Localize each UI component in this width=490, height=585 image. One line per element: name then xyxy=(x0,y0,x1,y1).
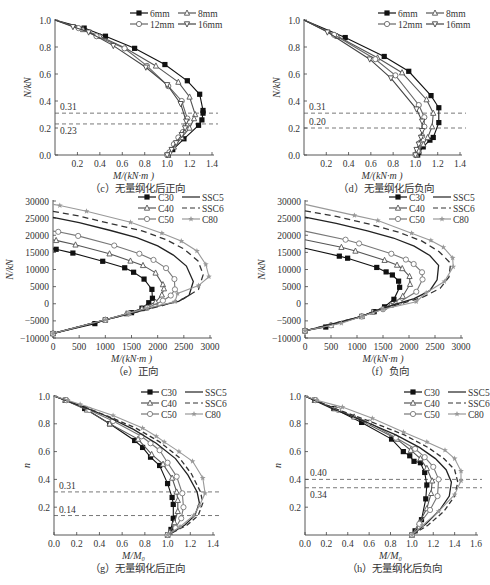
x-tick-label: 1.2 xyxy=(184,539,196,549)
y-tick-label: 0.6 xyxy=(289,447,301,457)
star-marker-icon xyxy=(458,478,464,483)
square-marker-icon xyxy=(396,279,401,284)
legend-item: C80 xyxy=(433,215,469,225)
legend-item: C40 xyxy=(389,204,425,214)
y-tick-label: 0.0 xyxy=(39,151,51,161)
square-marker-icon xyxy=(162,62,167,67)
square-marker-icon xyxy=(132,46,137,51)
x-tick-label: 1000 xyxy=(96,342,115,352)
legend-label: C50 xyxy=(161,410,177,420)
series-line-12mm xyxy=(304,20,424,155)
legend-item: 8mm xyxy=(426,9,466,19)
star-marker-icon xyxy=(454,411,460,416)
legend-item: C30 xyxy=(404,388,440,398)
legend-label: C30 xyxy=(161,388,177,398)
circle-marker-icon xyxy=(411,261,416,266)
legend-item: 8mm xyxy=(178,9,218,19)
chart-panel-c: 0.20.40.60.81.01.21.40.00.20.40.60.81.0N… xyxy=(22,9,223,195)
legend-label: 6mm xyxy=(398,9,418,19)
triangle-marker-icon xyxy=(400,265,405,270)
y-axis-label: n xyxy=(21,463,32,468)
circle-marker-icon xyxy=(356,241,361,246)
x-tick-label: 1.4 xyxy=(207,539,219,549)
legend-label: C80 xyxy=(453,215,469,225)
star-marker-icon xyxy=(439,216,445,221)
legend-item: C80 xyxy=(182,215,218,225)
x-tick-label: 2500 xyxy=(174,342,193,352)
x-tick-label: 1000 xyxy=(348,342,367,352)
x-tick-label: 1.2 xyxy=(432,159,444,169)
reference-line-label: 0.23 xyxy=(60,126,77,136)
figure-canvas: 0.20.40.60.81.01.21.40.00.20.40.60.81.0N… xyxy=(0,0,490,585)
triangle-down-marker-icon xyxy=(414,107,419,112)
star-marker-icon xyxy=(375,218,381,223)
y-tick-label: −10000 xyxy=(272,334,301,344)
x-tick-label: 1.0 xyxy=(409,159,421,169)
circle-marker-icon xyxy=(179,516,184,521)
legend-item: 12mm xyxy=(378,20,423,30)
legend-item: C50 xyxy=(389,215,425,225)
square-marker-icon xyxy=(136,10,141,15)
triangle-marker-icon xyxy=(429,490,434,495)
y-tick-label: 0.8 xyxy=(289,419,301,429)
star-marker-icon xyxy=(188,216,194,221)
y-axis-label: N/kN xyxy=(271,76,282,99)
circle-marker-icon xyxy=(395,216,400,221)
y-tick-label: 1.0 xyxy=(39,16,51,26)
circle-marker-icon xyxy=(136,21,141,26)
square-marker-icon xyxy=(100,259,105,264)
legend-label: SSC6 xyxy=(468,399,490,409)
panel-caption: （e）正向 xyxy=(113,365,158,377)
legend-label: SSC5 xyxy=(202,193,224,203)
legend-label: C30 xyxy=(424,388,440,398)
x-tick-label: 0.6 xyxy=(363,539,375,549)
chart-panel-e: 050010001500200025003000−10000−500005000… xyxy=(4,193,224,378)
square-marker-icon xyxy=(424,482,429,487)
square-marker-icon xyxy=(428,93,433,98)
legend-item: C80 xyxy=(448,410,484,420)
y-tick-label: 30000 xyxy=(25,197,49,207)
square-marker-icon xyxy=(374,265,379,270)
circle-marker-icon xyxy=(422,455,427,460)
series-line-6mm xyxy=(304,20,439,155)
legend-item: C30 xyxy=(389,193,425,203)
legend-item: SSC6 xyxy=(182,204,224,214)
x-tick-label: 1.4 xyxy=(206,159,218,169)
square-marker-icon xyxy=(401,449,406,454)
legend: C30C40C50SSC5SSC6C80 xyxy=(404,388,490,420)
legend-label: SSC6 xyxy=(453,204,475,214)
x-tick-label: 0.2 xyxy=(320,539,332,549)
legend-label: SSC6 xyxy=(202,204,224,214)
x-tick-label: 0.6 xyxy=(116,539,128,549)
square-marker-icon xyxy=(337,254,342,259)
square-marker-icon xyxy=(147,389,152,394)
circle-marker-icon xyxy=(56,229,61,234)
legend-item: SSC6 xyxy=(185,399,227,409)
legend-label: SSC5 xyxy=(453,193,475,203)
chart-panel-d: 0.20.40.60.81.01.21.40.00.20.40.60.81.0N… xyxy=(271,9,471,195)
legend-label: C50 xyxy=(409,215,425,225)
reference-line-label: 0.31 xyxy=(60,102,77,112)
triangle-marker-icon xyxy=(407,281,412,286)
y-tick-label: 0.4 xyxy=(289,475,301,485)
triangle-marker-icon xyxy=(430,478,435,483)
legend: C30C40C50SSC5SSC6C80 xyxy=(138,193,224,225)
x-axis-label: M/(kN·m ) xyxy=(110,353,153,365)
reference-line-label: 0.31 xyxy=(59,481,76,491)
square-marker-icon xyxy=(384,269,389,274)
x-tick-label: 3000 xyxy=(201,342,220,352)
square-marker-icon xyxy=(70,250,75,255)
y-axis-label: n xyxy=(272,463,283,468)
legend-item: C40 xyxy=(141,399,177,409)
legend-label: 6mm xyxy=(150,9,170,19)
circle-marker-icon xyxy=(172,287,177,292)
legend-label: C50 xyxy=(158,215,174,225)
legend-label: 8mm xyxy=(446,9,466,19)
x-tick-label: 1.2 xyxy=(427,539,439,549)
x-tick-label: 0.8 xyxy=(385,539,397,549)
legend-item: 16mm xyxy=(426,20,471,30)
y-tick-label: 1.0 xyxy=(38,392,50,402)
x-tick-label: 0.0 xyxy=(48,539,60,549)
y-tick-label: 1.0 xyxy=(288,16,300,26)
y-tick-label: 0.4 xyxy=(38,475,50,485)
